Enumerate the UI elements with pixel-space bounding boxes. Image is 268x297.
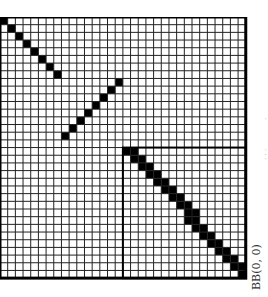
faint-mark-top: · [262, 118, 268, 120]
corner-label: BB(0, 0) [250, 244, 263, 290]
faint-mark-bottom: · · · [262, 149, 268, 160]
grid-diagram [0, 17, 250, 282]
